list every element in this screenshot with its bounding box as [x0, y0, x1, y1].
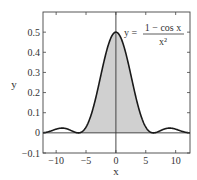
y-tick-label: 0.4 [28, 47, 41, 58]
x-axis-label: x [113, 165, 119, 177]
x-tick-label: −10 [48, 155, 64, 166]
equation-numerator: 1 − cos x [145, 22, 181, 33]
y-tick-label: 0.2 [28, 87, 41, 98]
equation-denominator: x² [159, 36, 167, 47]
chart: −10−50510−0.100.10.20.30.40.5 y = 1 − co… [0, 0, 197, 180]
x-tick-label: 10 [171, 155, 181, 166]
y-tick-label: 0.1 [28, 107, 41, 118]
x-tick-label: 5 [143, 155, 148, 166]
y-tick-label: 0 [35, 127, 40, 138]
y-tick-label: −0.1 [22, 148, 40, 159]
x-tick-label: −5 [81, 155, 92, 166]
y-axis-label: y [11, 78, 17, 90]
y-tick-label: 0.3 [28, 67, 41, 78]
y-tick-label: 0.5 [28, 27, 41, 38]
equation-lhs: y = [124, 27, 138, 38]
